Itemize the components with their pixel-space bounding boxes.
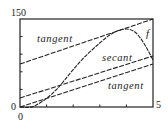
y-tick-label-bottom: 0 bbox=[11, 101, 16, 112]
x-tick-label-right: 5 bbox=[156, 99, 161, 110]
tangent-label-lower: tangent bbox=[108, 80, 144, 91]
secant-label: secant bbox=[102, 52, 133, 63]
y-tick-label-top: 150 bbox=[11, 7, 26, 18]
tangent-secant-chart: 150 0 0 5 tangent secant tangent f bbox=[0, 0, 168, 129]
x-tick-label-left: 0 bbox=[18, 111, 23, 122]
function-label-f: f bbox=[146, 27, 151, 39]
tangent-label-upper: tangent bbox=[37, 33, 73, 44]
secant-line bbox=[20, 56, 153, 98]
